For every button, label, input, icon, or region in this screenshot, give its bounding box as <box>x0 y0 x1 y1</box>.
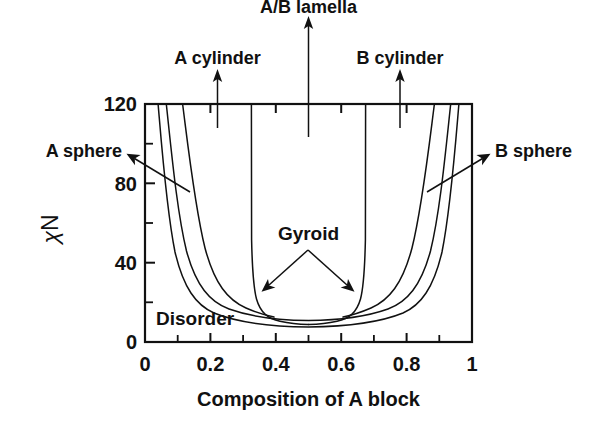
y-axis-title: χN <box>37 214 63 245</box>
curve-cylinder-gyroid-right <box>343 104 434 317</box>
label-ab-lamella: A/B lamella <box>260 0 358 17</box>
x-tick-label-0-6: 0.6 <box>327 353 355 375</box>
label-a-sphere: A sphere <box>46 141 122 161</box>
arrow-gyroid-right <box>308 250 355 292</box>
x-tick-label-0-2: 0.2 <box>196 353 224 375</box>
y-axis-ticks <box>145 104 155 342</box>
curve-odt <box>158 104 459 327</box>
phase-diagram-svg: 120 80 40 0 0 0.2 0.4 0.6 0.8 1 Composit… <box>0 0 610 424</box>
x-tick-label-0-4: 0.4 <box>262 353 291 375</box>
x-axis-title: Composition of A block <box>197 388 421 410</box>
phase-diagram-figure: 120 80 40 0 0 0.2 0.4 0.6 0.8 1 Composit… <box>0 0 610 424</box>
y-axis-title-chi: χ <box>37 231 63 246</box>
curve-gyroid-lamella-right <box>309 104 366 325</box>
x-tick-label-0-8: 0.8 <box>393 353 421 375</box>
arrow-a-cylinder <box>213 69 222 128</box>
x-tick-label-1: 1 <box>466 353 477 375</box>
x-axis-ticks <box>145 333 472 342</box>
y-tick-label-0: 0 <box>126 331 137 353</box>
arrow-gyroid-left <box>262 250 309 292</box>
y-tick-label-120: 120 <box>104 93 137 115</box>
curve-cylinder-gyroid-left <box>183 104 274 317</box>
label-disorder: Disorder <box>156 308 235 329</box>
arrow-b-sphere <box>427 154 491 192</box>
y-tick-label-80: 80 <box>115 173 137 195</box>
y-tick-label-40: 40 <box>115 252 137 274</box>
arrow-b-cylinder <box>395 69 404 128</box>
label-b-cylinder: B cylinder <box>356 48 443 68</box>
svg-text:χN: χN <box>37 214 63 245</box>
y-axis-title-n: N <box>37 214 63 231</box>
label-b-sphere: B sphere <box>495 141 572 161</box>
label-a-cylinder: A cylinder <box>174 48 260 68</box>
label-gyroid: Gyroid <box>278 223 339 244</box>
arrow-ab-lamella <box>304 16 313 137</box>
curve-gyroid-lamella-left <box>251 104 308 325</box>
x-tick-label-0: 0 <box>139 353 150 375</box>
